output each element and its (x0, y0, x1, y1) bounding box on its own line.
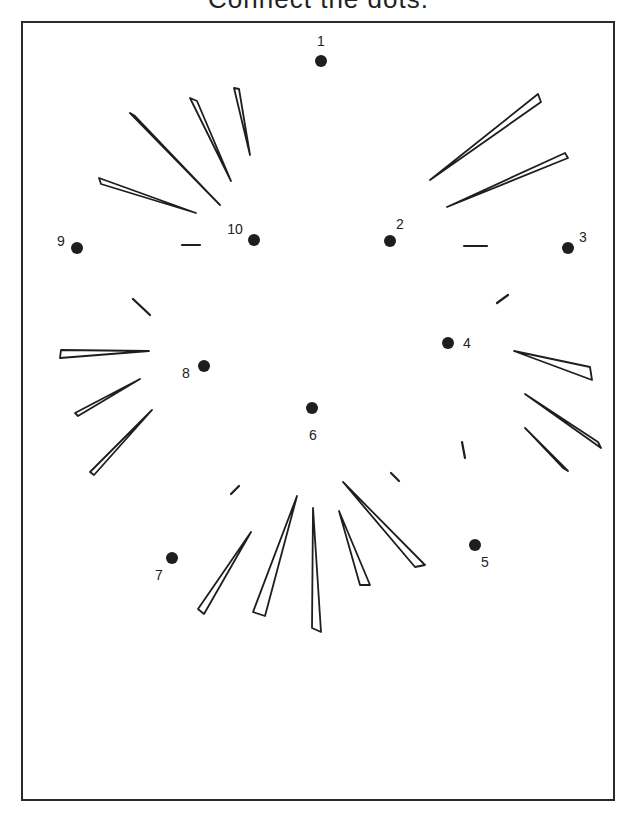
dot-2 (384, 235, 396, 247)
dot-label: 8 (182, 365, 190, 381)
dot-8 (198, 360, 210, 372)
dot-1 (315, 55, 327, 67)
ray-spike (234, 88, 250, 155)
ray-spike (430, 94, 541, 180)
dot-label: 2 (396, 216, 404, 232)
ray-spike (525, 428, 568, 471)
dash-mark (462, 442, 465, 458)
dot-4 (442, 337, 454, 349)
ray-spike (514, 351, 592, 380)
ray-spike (198, 532, 251, 614)
dot-label: 1 (317, 33, 325, 49)
ray-spike (447, 153, 568, 207)
dot-10 (248, 234, 260, 246)
dash-mark (231, 486, 239, 494)
dash-mark (133, 299, 150, 315)
dot-label: 10 (227, 221, 243, 237)
dot-3 (562, 242, 574, 254)
ray-spike (339, 511, 370, 585)
ray-spike (75, 379, 140, 416)
dot-7 (166, 552, 178, 564)
sun-drawing: 12345678910 (0, 0, 637, 820)
dash-mark (497, 295, 508, 303)
dot-label: 3 (579, 229, 587, 245)
dot-9 (71, 242, 83, 254)
dot-5 (469, 539, 481, 551)
dot-label: 5 (481, 554, 489, 570)
dash-mark (391, 473, 399, 481)
dot-label: 9 (57, 233, 65, 249)
dots-layer: 12345678910 (57, 33, 587, 583)
dot-label: 7 (155, 567, 163, 583)
ray-spike (190, 98, 231, 181)
dot-6 (306, 402, 318, 414)
ray-spike (99, 178, 196, 213)
dot-label: 4 (463, 335, 471, 351)
ray-spike (90, 410, 152, 475)
ray-spike (253, 496, 297, 616)
dot-label: 6 (309, 427, 317, 443)
ray-spike (60, 350, 149, 358)
ray-spike (312, 508, 321, 632)
